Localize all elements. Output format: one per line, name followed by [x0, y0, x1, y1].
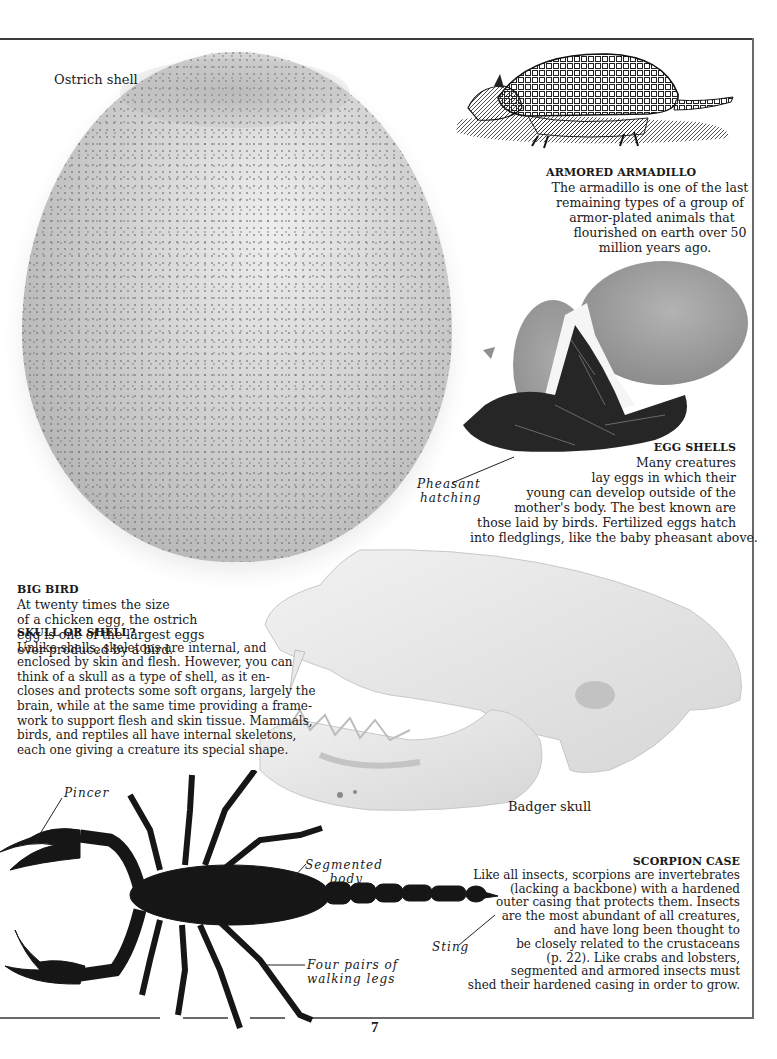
caption-line: shed their hardened casing in order to g… [460, 979, 740, 993]
egg-shells-caption: EGG SHELLS Many creatures lay eggs in wh… [470, 440, 736, 545]
caption-line: young can develop outside of the [470, 485, 736, 500]
caption-line: At twenty times the size [17, 597, 217, 612]
caption-line: lay eggs in which their [470, 470, 736, 485]
pincer-label: Pincer [64, 786, 109, 800]
label-line: Four pairs of [307, 958, 398, 972]
caption-line: (lacking a backbone) with a hardened [460, 883, 740, 897]
caption-line: think of a skull as a type of shell, as … [17, 670, 277, 685]
big-bird-heading: BIG BIRD [17, 582, 217, 597]
caption-line: Like all insects, scorpions are inverteb… [460, 869, 740, 883]
scorpion-case-caption: SCORPION CASE Like all insects, scorpion… [460, 855, 740, 993]
armored-armadillo-heading: ARMORED ARMADILLO [520, 165, 760, 180]
caption-line: of a chicken egg, the ostrich [17, 612, 217, 627]
armored-armadillo-caption: ARMORED ARMADILLO The armadillo is one o… [520, 165, 760, 255]
caption-line: remaining types of a group of [520, 195, 760, 210]
skull-or-shell-heading: SKULL OR SHELL? [17, 626, 277, 641]
label-line: Segmented [305, 858, 363, 872]
caption-line: million years ago. [520, 240, 760, 255]
page-frame-top-rule [0, 38, 753, 40]
walking-legs-label: Four pairs of walking legs [307, 958, 398, 986]
segmented-body-label: Segmented body [305, 858, 363, 886]
egg-shells-heading: EGG SHELLS [470, 440, 736, 455]
caption-line: work to support flesh and skin tissue. M… [17, 714, 277, 729]
caption-line: be closely related to the crustaceans [460, 938, 740, 952]
caption-line: Many creatures [470, 455, 736, 470]
pheasant-hatching-image [455, 255, 755, 455]
ostrich-egg-shading [120, 58, 350, 128]
badger-skull-label: Badger skull [508, 799, 591, 814]
label-line: walking legs [307, 972, 398, 986]
caption-line: those laid by birds. Fertilized eggs hat… [470, 515, 736, 530]
caption-line: outer casing that protects them. Insects [460, 896, 740, 910]
armadillo-engraving [448, 42, 738, 154]
scorpion-image [0, 770, 500, 1040]
caption-line: flourished on earth over 50 [520, 225, 760, 240]
book-page: Ostrich shell BIG BIRD At twenty times t… [0, 0, 777, 1059]
caption-line: Unlike shells, skeletons are internal, a… [17, 641, 277, 656]
ostrich-shell-label: Ostrich shell [54, 72, 138, 87]
caption-line: armor-plated animals that [520, 210, 760, 225]
caption-line: segmented and armored insects must [460, 965, 740, 979]
scorpion-case-heading: SCORPION CASE [460, 855, 740, 869]
caption-line: are the most abundant of all creatures, [460, 910, 740, 924]
caption-line: closes and protects some soft organs, la… [17, 684, 277, 699]
caption-line: each one giving a creature its special s… [17, 743, 277, 758]
caption-line: mother's body. The best known are [470, 500, 736, 515]
skull-or-shell-caption: SKULL OR SHELL? Unlike shells, skeletons… [17, 626, 277, 757]
page-number: 7 [371, 1019, 379, 1036]
caption-line: and have long been thought to [460, 924, 740, 938]
caption-line: birds, and reptiles all have internal sk… [17, 728, 277, 743]
caption-line: brain, while at the same time providing … [17, 699, 277, 714]
caption-line: The armadillo is one of the last [520, 180, 760, 195]
caption-line: (p. 22). Like crabs and lobsters, [460, 952, 740, 966]
caption-line: enclosed by skin and flesh. However, you… [17, 655, 277, 670]
ostrich-egg-image [22, 52, 452, 562]
label-line: body [305, 872, 363, 886]
